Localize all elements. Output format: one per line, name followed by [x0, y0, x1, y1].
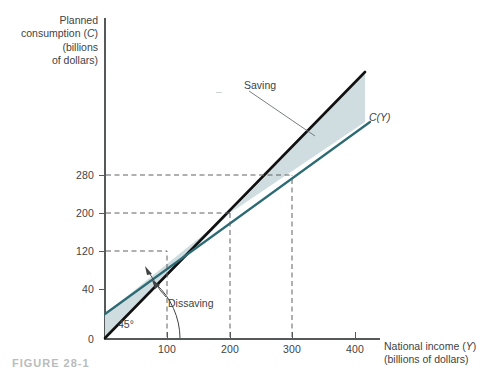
y-tick-label-40: 40 [48, 283, 94, 295]
x-axis-title-line-1: National income (Y) [384, 340, 481, 353]
dissaving-arrowhead [145, 266, 152, 275]
figure-caption: FIGURE 28-1 [12, 357, 90, 369]
x-tick-label-200: 200 [210, 343, 250, 355]
y-tick-label-280: 280 [48, 169, 94, 181]
saving-leader-line [249, 91, 315, 136]
y-tick-200 [99, 213, 105, 214]
x-axis-title: National income (Y) (billions of dollars… [384, 340, 481, 367]
scan-artifact-mark [216, 92, 222, 93]
x-tick-label-100: 100 [147, 343, 187, 355]
origin-label: 0 [88, 333, 94, 345]
angle-arc [156, 284, 180, 338]
x-tick-300 [292, 332, 293, 338]
x-tick-label-400: 400 [335, 343, 375, 355]
x-tick-label-300: 300 [272, 343, 312, 355]
dissaving-label: Dissaving [168, 297, 214, 309]
y-tick-120 [99, 251, 105, 252]
forty-five-degree-line [105, 72, 365, 338]
consumption-function-line [105, 122, 370, 314]
figure-root: Planned consumption (C) (billions of dol… [0, 0, 481, 373]
angle-label: 45° [118, 318, 134, 330]
y-tick-280 [99, 175, 105, 176]
saving-label: Saving [244, 79, 276, 91]
y-tick-40 [99, 289, 105, 290]
x-tick-400 [355, 332, 356, 338]
consumption-function-label: C(Y) [369, 111, 391, 123]
x-tick-100 [167, 332, 168, 338]
y-tick-label-120: 120 [48, 245, 94, 257]
y-tick-label-200: 200 [48, 207, 94, 219]
x-axis-title-line-2: (billions of dollars) [384, 353, 481, 366]
plot-area [0, 0, 481, 373]
x-tick-200 [230, 332, 231, 338]
